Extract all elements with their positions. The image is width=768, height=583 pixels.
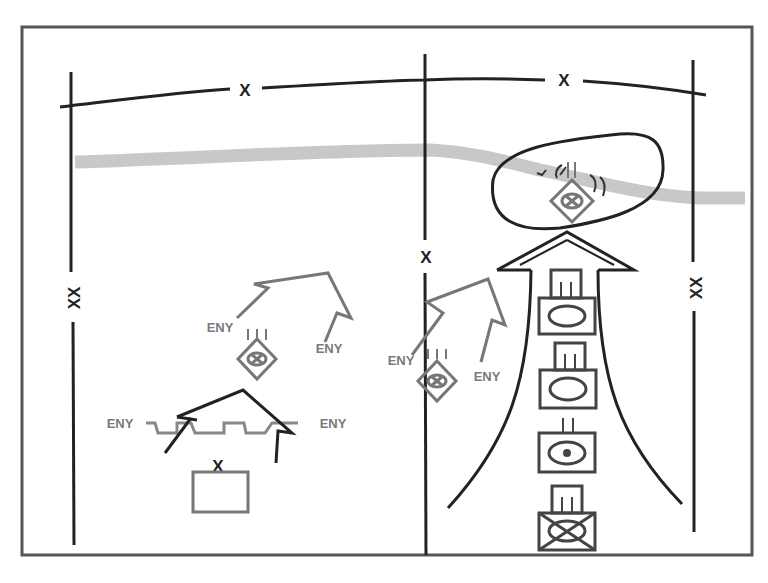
enemy-label-obstacle-left: ENY [107,416,134,431]
echelon-box [551,270,581,298]
center-brigade-label: X [420,248,432,267]
friendly-armor-unit-1 [539,270,595,334]
top-phase-line: X X [60,71,706,107]
top-boundary-label-left: X [239,81,251,100]
enemy-obstacle-line [146,423,298,433]
armor-icon [549,306,585,326]
brigade-reserve-unit: X [193,457,248,512]
enemy-unit-center [418,349,456,401]
enemy-attack-left [237,273,351,342]
map-frame [22,27,752,555]
right-division-boundary: XX [687,60,706,532]
unit-frame [193,472,248,512]
echelon-box [552,486,582,513]
enemy-label-center-b: ENY [474,369,501,384]
friendly-mech-infantry-unit [539,486,595,550]
friendly-armor-unit-2 [540,343,596,408]
enemy-label-center-a: ENY [388,353,415,368]
recon-dot-icon [563,449,571,457]
left-division-boundary: XX [65,72,84,545]
enemy-label-obstacle-right: ENY [320,416,347,431]
river [75,150,745,198]
enemy-label-left-b: ENY [316,341,343,356]
unit-frame [540,370,596,408]
diagram-canvas: XX X X X XX [0,0,768,583]
enemy-unit-left [238,329,276,379]
enemy-label-left-a: ENY [207,320,234,335]
right-division-label: XX [687,276,706,299]
left-division-label: XX [65,286,84,309]
friendly-recon-unit [539,418,595,472]
armor-icon [550,378,586,400]
friendly-counterattack [165,390,292,463]
unit-frame [539,298,595,334]
tactical-diagram: XX X X X XX [0,0,768,583]
top-boundary-label-right: X [558,71,570,90]
echelon-box [555,343,585,370]
